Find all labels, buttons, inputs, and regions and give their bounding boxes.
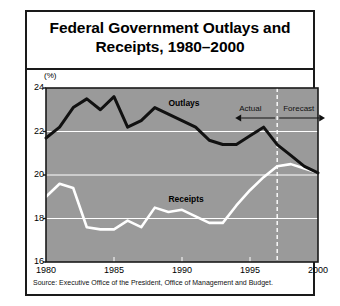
chart-svg: [0, 0, 340, 306]
series-label-receipts: Receipts: [168, 194, 203, 204]
y-tick-24: 24: [34, 82, 44, 92]
y-tick-18: 18: [34, 213, 44, 223]
chart-figure: Federal Government Outlays and Receipts,…: [0, 0, 340, 306]
x-axis-labels: 19801985199019952000: [0, 265, 340, 279]
x-tick-1985: 1985: [104, 265, 124, 275]
x-tick-1990: 1990: [172, 265, 192, 275]
forecast-period-label: Forecast: [283, 104, 314, 113]
x-tick-2000: 2000: [308, 265, 328, 275]
y-tick-22: 22: [34, 126, 44, 136]
y-axis-labels: 1618202224: [28, 83, 44, 263]
plot-area: [0, 0, 340, 306]
x-tick-1995: 1995: [240, 265, 260, 275]
source-note: Source: Executive Office of the Presiden…: [33, 279, 273, 286]
x-tick-1980: 1980: [36, 265, 56, 275]
series-label-outlays: Outlays: [168, 98, 199, 108]
actual-period-label: Actual: [239, 104, 261, 113]
y-tick-20: 20: [34, 169, 44, 179]
